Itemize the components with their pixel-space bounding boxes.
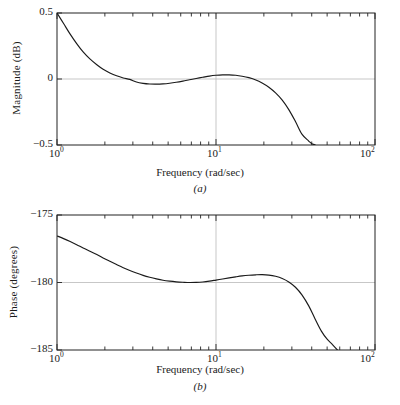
magnitude-xtick-1e2: 102	[360, 147, 375, 159]
magnitude-x-axis-label: Frequency (rad/sec)	[0, 166, 400, 178]
magnitude-ytick-bottom: −0.5	[10, 137, 53, 149]
magnitude-xtick-1e0: 100	[49, 147, 64, 159]
phase-ytick-mid: −180	[6, 275, 53, 287]
bode-plot-figure: Magnitude (dB) 0.5 0 −0.5 100 101 102 Fr…	[0, 0, 400, 405]
magnitude-subfigure-caption: (a)	[0, 182, 400, 194]
phase-ytick-bottom: −185	[6, 342, 53, 354]
phase-plot-panel: Phase (degrees) −175 −180 −185 100 101 1…	[0, 200, 400, 405]
phase-ytick-top: −175	[6, 207, 53, 219]
magnitude-ytick-top: 0.5	[10, 5, 53, 17]
phase-x-axis-label: Frequency (rad/sec)	[0, 363, 400, 375]
magnitude-ytick-mid: 0	[10, 71, 53, 83]
magnitude-xtick-1e1: 101	[207, 147, 222, 159]
phase-subfigure-caption: (b)	[0, 380, 400, 392]
magnitude-plot-panel: Magnitude (dB) 0.5 0 −0.5 100 101 102 Fr…	[0, 0, 400, 200]
